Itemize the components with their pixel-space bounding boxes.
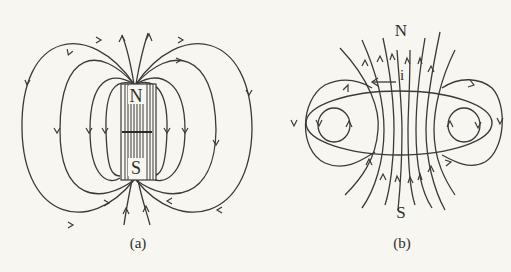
current-loop [306,91,492,155]
field-line [340,48,378,195]
panel-b-caption: (b) [393,235,411,252]
panel-a-caption: (a) [130,235,147,252]
current-label: i [400,67,404,83]
north-label: N [395,21,407,40]
magnet-south-label: S [131,158,141,178]
field-line-inner-loop [448,108,480,142]
south-label: S [396,203,405,222]
field-line [362,40,384,208]
field-line-inner-loop [318,108,350,142]
field-line [426,32,445,210]
panel-b-current-loop: i N S (b) [291,21,503,252]
field-line [408,50,415,205]
magnetic-field-figure: N S (a) [0,0,511,272]
field-line [383,38,394,205]
field-direction-arrows [291,54,503,183]
magnet-north-label: N [130,86,143,106]
field-line [434,50,455,195]
panel-a-bar-magnet: N S (a) [22,33,252,252]
